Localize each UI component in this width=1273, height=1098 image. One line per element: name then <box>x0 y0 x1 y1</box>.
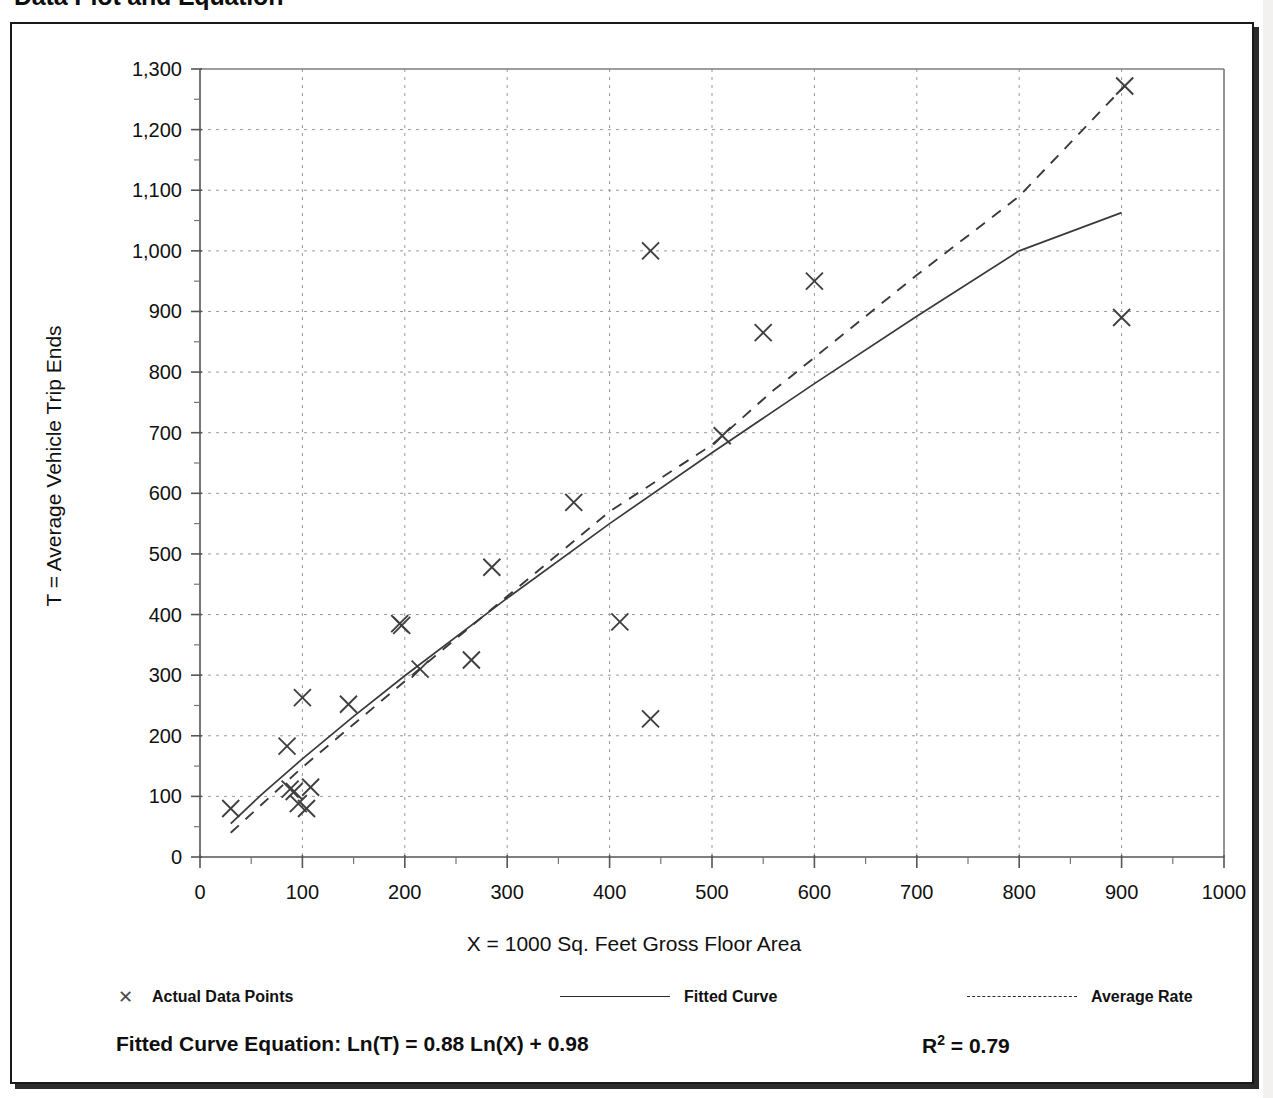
series-line-average-rate <box>231 86 1125 833</box>
series-line-fitted-curve <box>231 213 1122 824</box>
y-axis-tick-label: 100 <box>149 785 182 807</box>
x-axis-tick-label: 1000 <box>1202 881 1247 903</box>
y-axis-tick-label: 500 <box>149 543 182 565</box>
dashed-line-icon <box>967 987 1077 1007</box>
data-point-marker <box>298 800 315 817</box>
data-point-marker <box>483 559 500 576</box>
y-axis-title: T = Average Vehicle Trip Ends <box>42 256 66 676</box>
chart-frame: 01002003004005006007008009001,0001,1001,… <box>10 22 1254 1084</box>
legend-label-actual-data-points: Actual Data Points <box>152 988 293 1006</box>
chart-plot-area: 01002003004005006007008009001,0001,1001,… <box>12 24 1256 1086</box>
x-axis-tick-label: 300 <box>491 881 524 903</box>
data-point-marker <box>302 779 319 796</box>
x-axis-tick-label: 400 <box>593 881 626 903</box>
fitted-curve-equation: Fitted Curve Equation: Ln(T) = 0.88 Ln(X… <box>116 1032 589 1056</box>
y-axis-tick-label: 300 <box>149 664 182 686</box>
legend-item-fitted-curve: Fitted Curve <box>560 979 777 1015</box>
data-point-marker <box>565 494 582 511</box>
scatter-plot-svg: 01002003004005006007008009001,0001,1001,… <box>12 24 1256 1086</box>
data-point-marker <box>642 710 659 727</box>
x-axis-tick-label: 600 <box>798 881 831 903</box>
solid-line-icon <box>560 987 670 1007</box>
r-squared-value: R2 = 0.79 <box>922 1032 1010 1058</box>
data-point-marker <box>222 800 239 817</box>
x-axis-tick-label: 100 <box>286 881 319 903</box>
legend-item-actual-data-points: ✕ Actual Data Points <box>110 979 293 1015</box>
data-point-marker <box>340 696 357 713</box>
page-title: Data Plot and Equation <box>14 0 283 11</box>
x-axis-tick-label: 500 <box>695 881 728 903</box>
legend-item-average-rate: Average Rate <box>967 979 1193 1015</box>
x-axis-title: X = 1000 Sq. Feet Gross Floor Area <box>12 932 1256 956</box>
data-point-marker <box>279 738 296 755</box>
legend-label-average-rate: Average Rate <box>1091 988 1193 1006</box>
x-axis-tick-label: 0 <box>194 881 205 903</box>
x-axis-tick-label: 700 <box>900 881 933 903</box>
r-squared-prefix: R <box>922 1034 937 1057</box>
x-axis-tick-label: 200 <box>388 881 421 903</box>
chart-legend: ✕ Actual Data Points Fitted Curve Averag… <box>12 979 1256 1015</box>
data-point-marker <box>393 617 410 634</box>
data-point-marker <box>1116 77 1133 94</box>
legend-label-fitted-curve: Fitted Curve <box>684 988 777 1006</box>
series-points-actual-data-points <box>222 77 1133 817</box>
y-axis-tick-label: 900 <box>149 300 182 322</box>
r-squared-suffix: = 0.79 <box>945 1034 1010 1057</box>
y-axis-tick-label: 800 <box>149 361 182 383</box>
y-axis-tick-label: 1,000 <box>132 240 182 262</box>
x-axis-tick-label: 800 <box>1003 881 1036 903</box>
x-axis-tick-label: 900 <box>1105 881 1138 903</box>
y-axis-tick-label: 1,300 <box>132 58 182 80</box>
y-axis-tick-label: 400 <box>149 604 182 626</box>
y-axis-tick-label: 1,100 <box>132 179 182 201</box>
y-axis-tick-label: 1,200 <box>132 119 182 141</box>
x-marker-icon: ✕ <box>110 987 140 1007</box>
data-point-marker <box>755 324 772 341</box>
y-axis-tick-label: 700 <box>149 422 182 444</box>
y-axis-tick-label: 600 <box>149 482 182 504</box>
r-squared-exponent: 2 <box>937 1032 945 1048</box>
data-point-marker <box>611 613 628 630</box>
data-point-marker <box>463 652 480 669</box>
y-axis-tick-label: 0 <box>171 846 182 868</box>
scan-edge-artifact <box>1263 0 1273 1098</box>
equation-row: Fitted Curve Equation: Ln(T) = 0.88 Ln(X… <box>12 1026 1256 1070</box>
y-axis-tick-label: 200 <box>149 725 182 747</box>
